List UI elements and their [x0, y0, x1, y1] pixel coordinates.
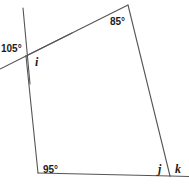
angle-label-i: i	[35, 56, 38, 68]
angle-label-95: 95°	[43, 165, 58, 175]
geometry-figure: 105° 85° 95° i j k	[0, 0, 189, 184]
line-transversal-left-ray	[0, 56, 26, 69]
line-transversal-right-ray	[26, 33, 72, 56]
line-base-extension-right	[170, 176, 189, 177]
angle-label-105: 105°	[1, 44, 22, 54]
line-upper-left-to-lower-left	[26, 56, 38, 173]
angle-label-j: j	[158, 163, 161, 175]
geometry-drawing	[0, 0, 189, 184]
line-transversal-upper-ray	[23, 8, 30, 84]
angle-label-85: 85°	[110, 17, 125, 27]
angle-label-k: k	[175, 163, 181, 175]
line-apex-to-lower-right	[128, 5, 170, 176]
